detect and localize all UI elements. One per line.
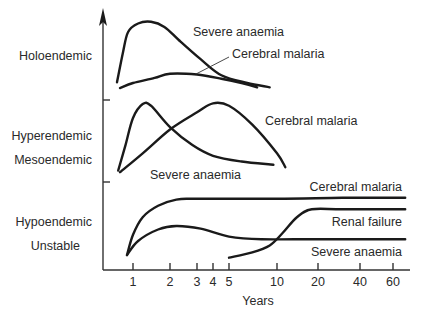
band-label-hyperendemic: Hyperendemic bbox=[11, 129, 92, 143]
x-tick-label: 20 bbox=[311, 275, 325, 289]
label-hypo-severe-anaemia: Severe anaemia bbox=[311, 245, 402, 259]
x-tick-label: 5 bbox=[226, 275, 233, 289]
x-ticks: 1234510204060 bbox=[130, 263, 400, 289]
x-tick-label: 1 bbox=[130, 275, 137, 289]
band-label-unstable: Unstable bbox=[31, 239, 80, 253]
x-tick-label: 10 bbox=[270, 275, 284, 289]
x-tick-label: 60 bbox=[386, 275, 400, 289]
label-hypo-cerebral-malaria: Cerebral malaria bbox=[310, 180, 402, 194]
x-tick-label: 40 bbox=[353, 275, 367, 289]
band-label-mesoendemic: Mesoendemic bbox=[14, 153, 92, 167]
x-tick-label: 2 bbox=[167, 275, 174, 289]
x-tick-label: 3 bbox=[194, 275, 201, 289]
curve-holoendemic-cerebral-malaria bbox=[120, 73, 257, 88]
label-holo-severe-anaemia: Severe anaemia bbox=[193, 25, 284, 39]
band-label-holoendemic: Holoendemic bbox=[19, 49, 92, 63]
label-hyper-cerebral-malaria: Cerebral malaria bbox=[265, 114, 357, 128]
label-hyper-severe-anaemia: Severe anaemia bbox=[150, 168, 241, 182]
x-axis-title: Years bbox=[242, 294, 274, 308]
label-holo-cerebral-malaria: Cerebral malaria bbox=[232, 47, 324, 61]
x-tick-label: 4 bbox=[210, 275, 217, 289]
label-hypo-renal-failure: Renal failure bbox=[332, 215, 402, 229]
band-label-hypoendemic: Hypoendemic bbox=[16, 215, 92, 229]
curve-hyperendemic-mesoendemic-cerebral-malaria bbox=[120, 103, 285, 173]
chart: Holoendemic Hyperendemic Mesoendemic Hyp… bbox=[0, 0, 422, 318]
